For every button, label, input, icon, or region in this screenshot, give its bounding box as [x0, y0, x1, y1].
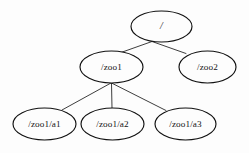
node-zoo1-a2-label: /zoo1/a2 — [96, 119, 129, 129]
znode-tree-diagram: / /zoo1 /zoo2 /zoo1/a1 /zoo1/a2 /zoo1/a3 — [0, 0, 249, 153]
node-zoo1-a3[interactable]: /zoo1/a3 — [155, 108, 216, 140]
edge-root-to-zoo1 — [121, 42, 152, 53]
node-zoo1-label: /zoo1 — [101, 62, 122, 72]
edge-root-to-zoo2 — [152, 42, 186, 54]
tree-canvas: / /zoo1 /zoo2 /zoo1/a1 /zoo1/a2 /zoo1/a3 — [0, 0, 249, 153]
node-zoo1-a1-label: /zoo1/a1 — [28, 119, 61, 129]
edge-zoo1-to-a2 — [112, 83, 113, 108]
node-root[interactable]: / — [131, 11, 192, 42]
node-zoo1-a1[interactable]: /zoo1/a1 — [13, 108, 76, 140]
edge-zoo1-to-a3 — [112, 83, 167, 111]
node-zoo2[interactable]: /zoo2 — [179, 51, 236, 83]
node-zoo1[interactable]: /zoo1 — [80, 51, 143, 83]
node-zoo1-a2[interactable]: /zoo1/a2 — [81, 108, 144, 140]
node-zoo1-a3-label: /zoo1/a3 — [169, 119, 202, 129]
node-zoo2-label: /zoo2 — [197, 62, 218, 72]
edge-zoo1-to-a1 — [62, 83, 111, 110]
